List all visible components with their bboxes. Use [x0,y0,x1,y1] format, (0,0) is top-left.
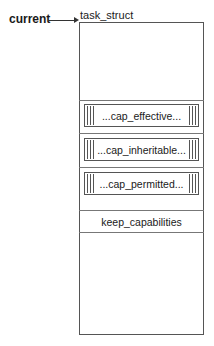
double-bar-icon [87,106,94,125]
field-label: ...cap_permitted... [99,178,183,190]
current-pointer-label: current [9,12,50,26]
double-bar-icon [87,140,94,159]
double-bar-icon [189,140,196,159]
field-cap-inheritable: ...cap_inheritable... [84,138,199,161]
double-bar-icon [189,106,196,125]
field-label: ...cap_effective... [102,110,181,122]
pointer-arrow-line [48,20,75,21]
field-cap-effective: ...cap_effective... [84,104,199,127]
divider [79,133,204,134]
field-label: ...cap_inheritable... [97,144,186,156]
divider [79,232,204,233]
double-bar-icon [189,174,196,193]
divider [79,100,204,101]
field-cap-permitted: ...cap_permitted... [84,172,199,195]
field-keep-capabilities: keep_capabilities [79,211,204,232]
divider [79,167,204,168]
struct-name-label: task_struct [80,9,133,21]
double-bar-icon [87,174,94,193]
